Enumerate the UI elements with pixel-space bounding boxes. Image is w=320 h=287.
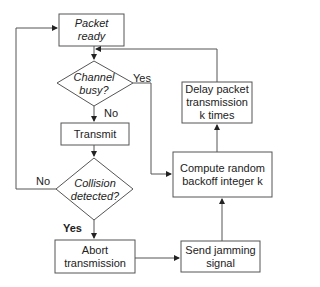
delay-node: Delay packet transmission k times	[182, 82, 252, 123]
collision-node: Collision detected?	[62, 176, 128, 204]
compute-node: Compute random backoff integer k	[173, 152, 272, 197]
compute-line2: backoff integer k	[182, 175, 263, 188]
delay-line1: Delay packet	[185, 83, 249, 96]
collision-yes-label: Yes	[63, 222, 82, 234]
collision-line1: Collision	[74, 177, 116, 190]
packet-ready-line1: Packet	[75, 17, 109, 30]
transmit-label: Transmit	[74, 128, 116, 141]
channel-busy-node: Channel busy?	[64, 70, 124, 98]
jamming-node: Send jamming signal	[181, 241, 260, 272]
compute-line1: Compute random	[180, 162, 265, 175]
channel-busy-line2: busy?	[79, 84, 108, 97]
packet-ready-node: Packet ready	[59, 14, 124, 46]
delay-line2: transmission	[186, 96, 248, 109]
channel-busy-line1: Channel	[74, 71, 115, 84]
collision-no-label: No	[36, 175, 50, 187]
jamming-line1: Send jamming	[185, 244, 255, 257]
channel-no-label: No	[104, 107, 118, 119]
abort-node: Abort transmission	[55, 240, 135, 273]
abort-line1: Abort	[82, 244, 108, 257]
transmit-node: Transmit	[61, 123, 129, 145]
channel-yes-label: Yes	[133, 72, 151, 84]
collision-line2: detected?	[71, 190, 119, 203]
packet-ready-line2: ready	[78, 30, 106, 43]
abort-line2: transmission	[64, 257, 126, 270]
delay-line3: k times	[200, 109, 235, 122]
jamming-line2: signal	[206, 257, 235, 270]
